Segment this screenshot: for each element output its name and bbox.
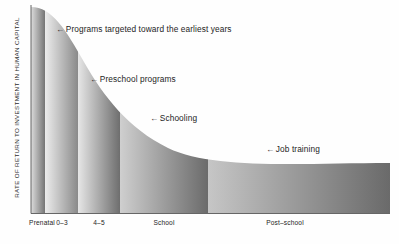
chart-figure: RATE OF RETURN TO INVESTMENT IN HUMAN CA… — [0, 0, 399, 244]
annotation-preschool-programs: ←Preschool programs — [90, 74, 176, 84]
x-tick-label-4-5: 4–5 — [85, 219, 113, 226]
annotation-text: Job training — [276, 144, 320, 154]
x-tick-label-post-school: Post–school — [250, 219, 320, 226]
annotation-earliest-years: ←Programs targeted toward the earliest y… — [56, 24, 232, 34]
arrow-left-icon: ← — [266, 144, 274, 154]
x-tick-label-0-3: 0–3 — [48, 219, 76, 226]
annotation-text: Preschool programs — [100, 74, 176, 84]
arrow-left-icon: ← — [56, 24, 64, 34]
band-prenatal — [31, 0, 45, 244]
annotation-job-training: ←Job training — [266, 144, 320, 154]
chart-plot-area — [0, 0, 399, 244]
band-4-5 — [78, 0, 120, 244]
band-post-school — [208, 0, 390, 244]
arrow-left-icon: ← — [150, 113, 158, 123]
annotation-text: Schooling — [160, 113, 197, 123]
x-tick-label-school: School — [140, 219, 188, 226]
band-0-3 — [45, 0, 78, 244]
annotation-schooling: ←Schooling — [150, 113, 197, 123]
annotation-text: Programs targeted toward the earliest ye… — [66, 24, 232, 34]
arrow-left-icon: ← — [90, 74, 98, 84]
